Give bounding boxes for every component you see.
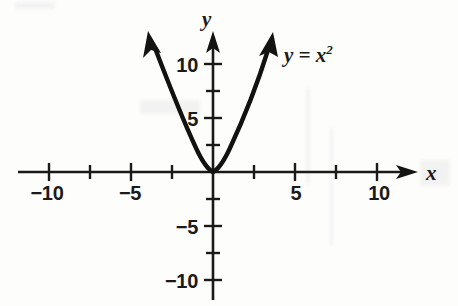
y-tick-label-minus-5: −5 bbox=[176, 216, 198, 238]
x-tick-label-10: 10 bbox=[368, 182, 390, 204]
graph-canvas: −10 −5 5 10 x 10 5 −5 −10 y bbox=[0, 0, 458, 306]
parabola-curve bbox=[155, 48, 268, 172]
figure-page: −10 −5 5 10 x 10 5 −5 −10 y bbox=[0, 0, 458, 306]
y-tick-label-minus-10: −10 bbox=[165, 270, 198, 292]
x-axis-label: x bbox=[425, 161, 437, 185]
parabola-curve-group bbox=[143, 31, 278, 172]
y-tick-label-10: 10 bbox=[176, 54, 198, 76]
x-tick-label-minus-10: −10 bbox=[30, 182, 63, 204]
equation-annotation: y = x2 bbox=[281, 42, 333, 67]
x-tick-label-5: 5 bbox=[291, 182, 302, 204]
y-axis-label: y bbox=[199, 7, 212, 31]
equation-label: y = x2 bbox=[281, 42, 333, 67]
y-axis-group: 10 5 −5 −10 y bbox=[165, 7, 222, 300]
x-tick-label-minus-5: −5 bbox=[119, 182, 141, 204]
x-axis-group: −10 −5 5 10 x bbox=[18, 161, 437, 204]
equation-label-exponent: 2 bbox=[325, 42, 333, 57]
equation-label-base: y = x bbox=[281, 43, 326, 67]
